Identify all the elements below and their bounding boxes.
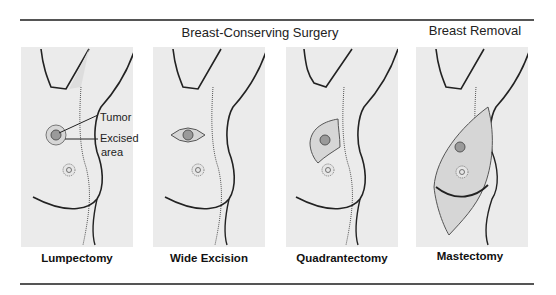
caption-mastectomy: Mastectomy	[400, 250, 540, 262]
tumor-label: Tumor	[100, 111, 131, 124]
caption-quadrantectomy: Quadrantectomy	[272, 252, 412, 264]
panel-wide-excision	[153, 47, 265, 247]
bottom-rule	[20, 283, 534, 285]
caption-lumpectomy: Lumpectomy	[7, 252, 147, 264]
top-rule-left	[20, 19, 420, 21]
caption-wide-excision: Wide Excision	[139, 252, 279, 264]
quadrantectomy-illustration	[286, 47, 398, 247]
mastectomy-illustration	[416, 47, 528, 247]
panel-mastectomy	[416, 47, 528, 247]
panel-quadrantectomy	[286, 47, 398, 247]
top-rule-right	[414, 19, 534, 21]
group-title-breast-removal: Breast Removal	[420, 23, 530, 38]
excised-area-label-line2: area	[101, 146, 123, 159]
excised-area-label-line1: Excised	[100, 132, 139, 145]
group-title-breast-conserving: Breast-Conserving Surgery	[130, 25, 390, 40]
wide-excision-illustration	[153, 47, 265, 247]
